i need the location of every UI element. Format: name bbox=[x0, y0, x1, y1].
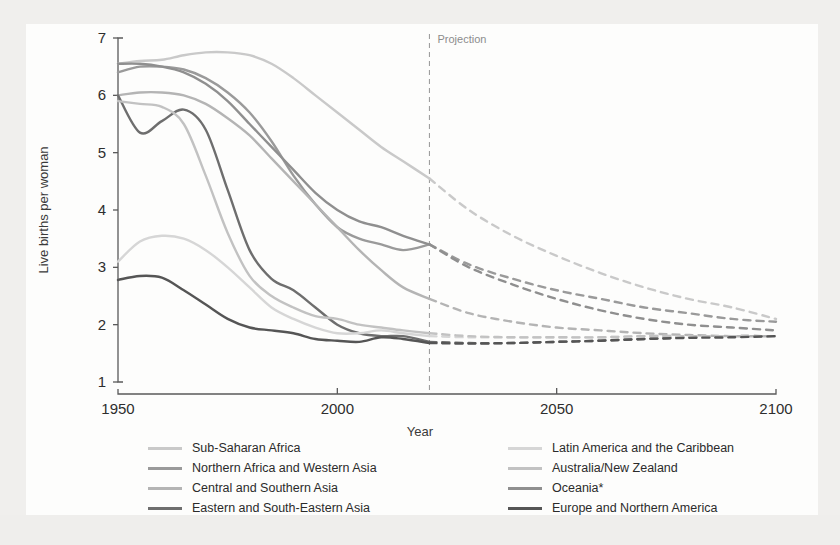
legend-color-swatch bbox=[508, 467, 542, 470]
legend-color-swatch bbox=[148, 507, 182, 510]
legend-color-swatch bbox=[508, 507, 542, 510]
legend-item-label: Eastern and South-Eastern Asia bbox=[192, 502, 370, 515]
legend-item-label: Northern Africa and Western Asia bbox=[192, 462, 377, 475]
series-line bbox=[118, 236, 776, 338]
svg-text:2000: 2000 bbox=[321, 400, 354, 417]
legend-item[interactable]: Latin America and the Caribbean bbox=[508, 440, 734, 457]
y-axis bbox=[113, 38, 123, 382]
chart-svg: 12345671950200020502100 Projection Live … bbox=[26, 24, 818, 424]
x-axis bbox=[118, 388, 776, 394]
series-line bbox=[118, 64, 776, 331]
svg-text:2: 2 bbox=[98, 316, 106, 333]
svg-text:1950: 1950 bbox=[101, 400, 134, 417]
legend-item-label: Central and Southern Asia bbox=[192, 482, 338, 495]
legend-color-swatch bbox=[148, 447, 182, 450]
legend-item-label: Europe and Northern America bbox=[552, 502, 717, 515]
projection-annotation: Projection bbox=[437, 33, 486, 45]
x-axis-title-wrap: Year bbox=[0, 422, 840, 440]
svg-text:5: 5 bbox=[98, 144, 106, 161]
scan-edge-top bbox=[0, 0, 840, 24]
x-axis-title: Year bbox=[407, 424, 433, 439]
legend-column-right: Latin America and the CaribbeanAustralia… bbox=[508, 440, 734, 520]
chart-legend: Sub-Saharan AfricaNorthern Africa and We… bbox=[0, 440, 840, 525]
legend-item[interactable]: Sub-Saharan Africa bbox=[148, 440, 377, 457]
legend-item-label: Australia/New Zealand bbox=[552, 462, 678, 475]
series-line bbox=[118, 276, 776, 344]
legend-item-label: Latin America and the Caribbean bbox=[552, 442, 734, 455]
legend-column-left: Sub-Saharan AfricaNorthern Africa and We… bbox=[148, 440, 377, 520]
legend-color-swatch bbox=[508, 487, 542, 490]
svg-text:1: 1 bbox=[98, 373, 106, 390]
svg-text:4: 4 bbox=[98, 201, 106, 218]
svg-text:2100: 2100 bbox=[759, 400, 792, 417]
legend-item[interactable]: Europe and Northern America bbox=[508, 500, 734, 517]
legend-color-swatch bbox=[508, 447, 542, 450]
svg-text:7: 7 bbox=[98, 29, 106, 46]
legend-item-label: Oceania* bbox=[552, 482, 603, 495]
legend-item[interactable]: Central and Southern Asia bbox=[148, 480, 377, 497]
legend-item-label: Sub-Saharan Africa bbox=[192, 442, 300, 455]
legend-item[interactable]: Australia/New Zealand bbox=[508, 460, 734, 477]
legend-color-swatch bbox=[148, 467, 182, 470]
legend-item[interactable]: Northern Africa and Western Asia bbox=[148, 460, 377, 477]
legend-item[interactable]: Eastern and South-Eastern Asia bbox=[148, 500, 377, 517]
series-line bbox=[118, 92, 776, 336]
figure-page: 12345671950200020502100 Projection Live … bbox=[0, 0, 840, 545]
svg-text:6: 6 bbox=[98, 86, 106, 103]
line-chart: 12345671950200020502100 Projection Live … bbox=[26, 24, 818, 424]
y-axis-title: Live births per woman bbox=[36, 146, 51, 273]
svg-text:2050: 2050 bbox=[540, 400, 573, 417]
legend-color-swatch bbox=[148, 487, 182, 490]
tick-labels: 12345671950200020502100 bbox=[98, 29, 793, 417]
svg-text:3: 3 bbox=[98, 258, 106, 275]
series-layer bbox=[118, 52, 776, 344]
series-line bbox=[118, 66, 776, 322]
series-line bbox=[118, 101, 776, 337]
legend-item[interactable]: Oceania* bbox=[508, 480, 734, 497]
